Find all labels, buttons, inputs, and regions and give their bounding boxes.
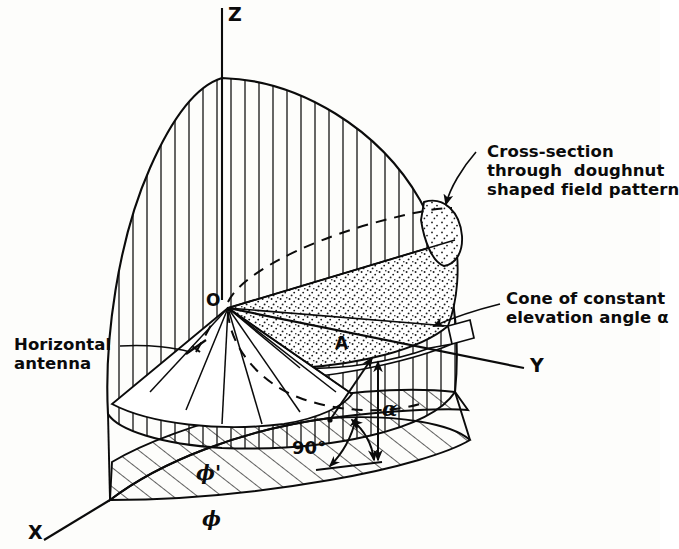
z-axis-label: Z [228,4,242,26]
phi-label: ϕ [202,508,221,531]
antenna-note-line-1: Horizontal [14,336,111,355]
alpha-angle-label: α [382,398,398,421]
y-axis-label: Y [530,355,544,377]
cross-section-note-line-3: shaped field pattern [487,181,679,200]
right-angle-label: 90° [292,438,326,459]
point-a-label: A [335,334,348,353]
point-a-marker [327,417,332,422]
cone-note-line-2: elevation angle α [506,309,669,328]
cross-section-note-line-2: through doughnut [487,162,664,181]
cross-section-note-line-1: Cross-section [487,143,614,162]
cone-note-line-1: Cone of constant [506,290,665,309]
antenna-note-line-2: antenna [14,355,91,374]
x-axis-label: X [28,522,43,544]
origin-label: O [206,291,221,310]
x-axis [44,500,110,540]
phi-prime-label: ϕ' [196,462,221,485]
